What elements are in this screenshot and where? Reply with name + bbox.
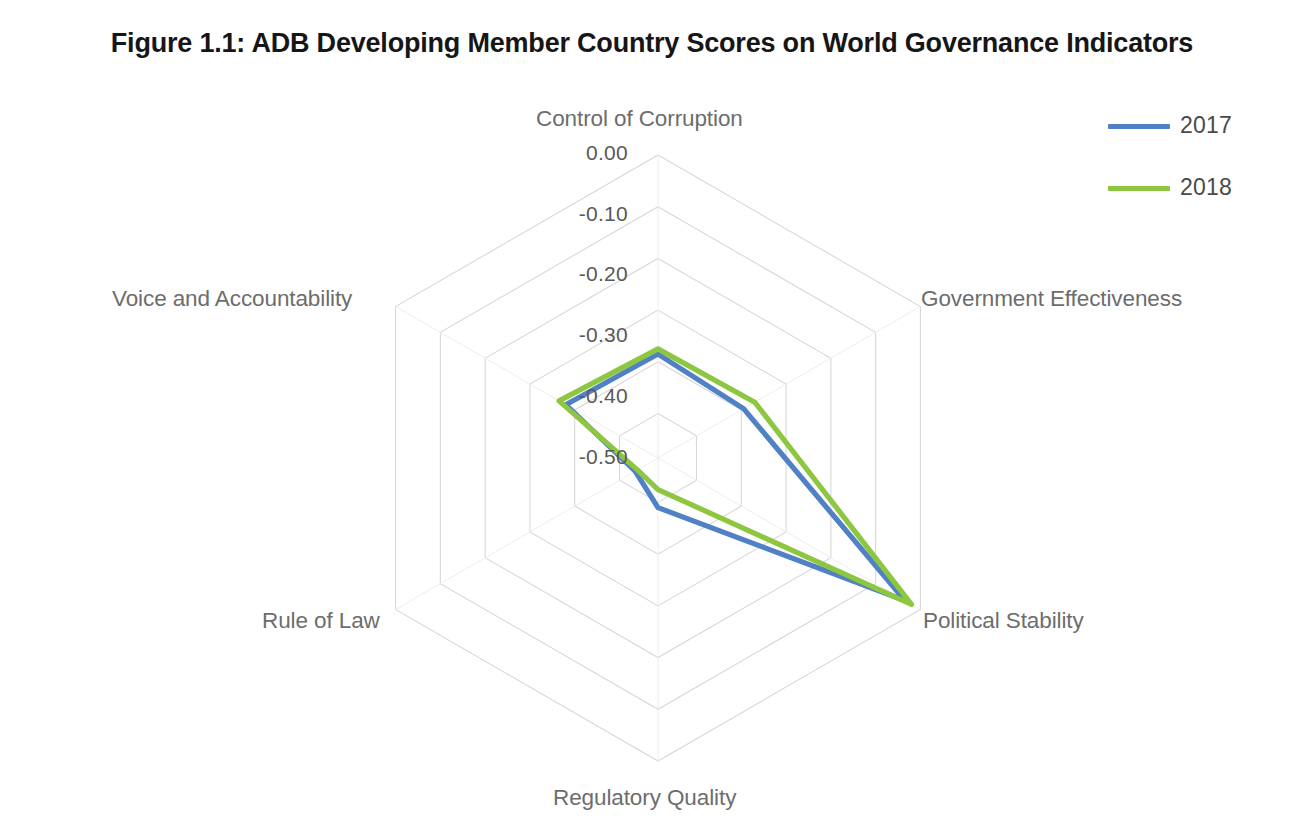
axis-label-rule-of-law: Rule of Law [262,608,380,634]
axis-label-political-stability: Political Stability [923,608,1084,634]
legend-label-2018: 2018 [1180,172,1232,202]
legend-color-swatch-2017 [1108,124,1170,129]
axis-label-control-of-corruption: Control of Corruption [536,106,743,132]
tick-label-3: -0.30 [528,323,628,347]
tick-label-4: -0.40 [528,384,628,408]
legend-color-swatch-2018 [1108,186,1170,191]
axis-label-regulatory-quality: Regulatory Quality [553,785,736,811]
legend-item-2017[interactable]: 2017 [1108,110,1278,172]
axis-spokes [396,155,921,761]
legend: 2017 2018 [1108,110,1278,234]
tick-label-0: 0.00 [528,141,628,165]
axis-label-voice-and-accountability: Voice and Accountability [112,286,352,312]
axis-label-government-effectiveness: Government Effectiveness [921,286,1182,312]
tick-label-1: -0.10 [528,202,628,226]
tick-label-5: -0.50 [528,445,628,469]
tick-label-2: -0.20 [528,262,628,286]
legend-item-2018[interactable]: 2018 [1108,172,1278,234]
legend-label-2017: 2017 [1180,110,1232,140]
figure-container: Figure 1.1: ADB Developing Member Countr… [0,0,1304,834]
axis-spoke [658,458,920,610]
axis-spoke [396,458,658,610]
